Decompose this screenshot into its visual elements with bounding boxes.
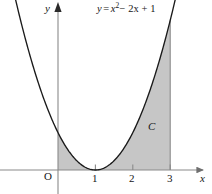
equation-y: y [97, 3, 102, 14]
y-axis-arrowhead [54, 2, 61, 12]
origin-label: O [44, 170, 52, 182]
equation-equals: = [103, 3, 109, 14]
shaded-region-c-clipped [58, 20, 170, 170]
x-tick-label-3: 3 [167, 172, 173, 184]
x-tick-label-1: 1 [92, 172, 98, 184]
region-label-c: C [148, 120, 155, 132]
x-tick-label-2: 2 [129, 172, 135, 184]
y-axis-label: y [45, 2, 50, 14]
x-axis-label: x [200, 172, 205, 184]
parabola-plot-svg [0, 0, 212, 194]
equation-label: y=x2− 2x + 1 [97, 3, 156, 14]
equation-rest: − 2x + 1 [119, 3, 155, 14]
graph-figure: y=x2− 2x + 1 y x O 1 2 3 C [0, 0, 212, 194]
